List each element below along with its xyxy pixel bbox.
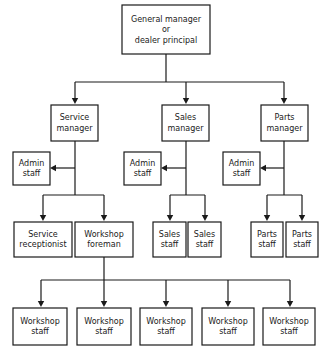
node-label-workshop-staff-3: Workshop	[146, 317, 185, 326]
node-label-general-manager: or	[162, 25, 171, 34]
node-label-workshop-staff-2: staff	[95, 327, 113, 336]
arrow-manager-2	[183, 98, 189, 104]
node-label-parts-staff-2: staff	[293, 240, 311, 249]
node-label-sales-manager: manager	[168, 124, 205, 133]
arrow-admin-1	[50, 165, 56, 171]
node-parts-staff-2[interactable]: Partsstaff	[286, 222, 318, 257]
node-label-workshop-staff-2: Workshop	[84, 317, 123, 326]
node-admin-staff-parts[interactable]: Adminstaff	[223, 152, 260, 185]
arrow-parts-child-1	[264, 215, 270, 221]
node-label-sales-manager: Sales	[175, 113, 196, 122]
node-workshop-staff-5[interactable]: Workshopstaff	[263, 308, 315, 345]
node-label-workshop-staff-1: Workshop	[20, 317, 59, 326]
node-label-service-receptionist: Service	[28, 230, 58, 239]
arrow-workshop-4	[225, 301, 231, 307]
node-label-workshop-staff-5: staff	[280, 327, 298, 336]
arrow-manager-1	[72, 98, 78, 104]
node-label-parts-manager: Parts	[275, 113, 295, 122]
arrow-workshop-3	[163, 301, 169, 307]
arrow-workshop-1	[38, 301, 44, 307]
node-label-parts-staff-1: staff	[258, 240, 276, 249]
node-label-workshop-staff-4: staff	[219, 327, 237, 336]
node-label-admin-staff-service: Admin	[19, 159, 45, 168]
node-label-sales-staff-2: Sales	[194, 230, 215, 239]
node-label-admin-staff-sales: staff	[134, 169, 152, 178]
node-label-admin-staff-parts: staff	[233, 169, 251, 178]
node-sales-manager[interactable]: Salesmanager	[162, 105, 209, 141]
node-workshop-staff-1[interactable]: Workshopstaff	[13, 308, 67, 345]
node-label-service-receptionist: receptionist	[19, 240, 66, 249]
node-label-sales-staff-1: staff	[161, 240, 179, 249]
node-label-general-manager: dealer principal	[135, 36, 197, 45]
node-label-sales-staff-1: Sales	[159, 230, 180, 239]
arrow-sales-child-2	[202, 215, 208, 221]
connector-layer	[38, 54, 305, 307]
node-sales-staff-2[interactable]: Salesstaff	[188, 222, 221, 257]
node-parts-manager[interactable]: Partsmanager	[261, 105, 308, 141]
node-admin-staff-sales[interactable]: Adminstaff	[124, 152, 161, 185]
arrow-workshop-2	[101, 301, 107, 307]
node-general-manager[interactable]: General managerordealer principal	[122, 5, 210, 54]
organisational-chart: General managerordealer principalService…	[0, 0, 331, 357]
node-label-parts-staff-1: Parts	[257, 230, 277, 239]
arrow-service-child-1	[40, 215, 46, 221]
node-workshop-foreman[interactable]: Workshopforeman	[75, 222, 133, 257]
node-workshop-staff-4[interactable]: Workshopstaff	[202, 308, 254, 345]
node-label-workshop-foreman: foreman	[87, 240, 121, 249]
node-label-admin-staff-sales: Admin	[130, 159, 156, 168]
node-label-sales-staff-2: staff	[196, 240, 214, 249]
arrow-parts-child-2	[299, 215, 305, 221]
node-label-workshop-foreman: Workshop	[84, 230, 123, 239]
node-service-receptionist[interactable]: Servicereceptionist	[14, 222, 72, 257]
node-label-parts-staff-2: Parts	[292, 230, 312, 239]
node-sales-staff-1[interactable]: Salesstaff	[153, 222, 186, 257]
arrow-admin-3	[260, 165, 266, 171]
node-label-general-manager: General manager	[131, 15, 202, 24]
arrow-service-child-2	[101, 215, 107, 221]
node-parts-staff-1[interactable]: Partsstaff	[251, 222, 283, 257]
arrow-manager-3	[281, 98, 287, 104]
node-label-service-manager: Service	[60, 113, 90, 122]
node-service-manager[interactable]: Servicemanager	[51, 105, 98, 141]
node-label-workshop-staff-5: Workshop	[269, 317, 308, 326]
arrow-workshop-5	[287, 301, 293, 307]
arrow-admin-2	[161, 165, 167, 171]
node-label-service-manager: manager	[57, 124, 94, 133]
node-admin-staff-service[interactable]: Adminstaff	[13, 152, 50, 185]
node-workshop-staff-2[interactable]: Workshopstaff	[77, 308, 131, 345]
node-label-workshop-staff-4: Workshop	[208, 317, 247, 326]
node-label-workshop-staff-3: staff	[157, 327, 175, 336]
node-workshop-staff-3[interactable]: Workshopstaff	[140, 308, 192, 345]
arrow-sales-child-1	[167, 215, 173, 221]
node-label-admin-staff-service: staff	[23, 169, 41, 178]
node-label-workshop-staff-1: staff	[31, 327, 49, 336]
node-label-admin-staff-parts: Admin	[229, 159, 255, 168]
node-label-parts-manager: manager	[267, 124, 304, 133]
